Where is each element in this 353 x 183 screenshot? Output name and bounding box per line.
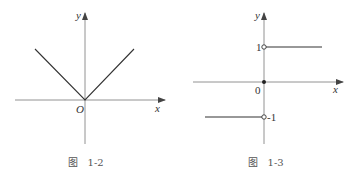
abs-curve <box>35 49 134 100</box>
y-axis-label: y <box>75 9 81 21</box>
figure-caption: 图 1-2 <box>68 157 104 168</box>
tick-label-1: 1 <box>256 41 262 53</box>
open-point-upper <box>262 45 266 49</box>
tick-label-minus-1: -1 <box>267 111 276 123</box>
figure-caption: 图 1-3 <box>248 157 284 168</box>
x-axis-label: x <box>154 102 160 114</box>
figures-canvas: y x O 图 1-2 y x 0 1 -1 图 1-3 <box>0 0 353 183</box>
origin-label: 0 <box>255 84 261 96</box>
figure-1-2: y x O 图 1-2 <box>15 9 165 168</box>
x-axis-label: x <box>332 83 338 95</box>
filled-point-origin <box>262 80 266 84</box>
origin-label: O <box>76 103 84 115</box>
y-axis-label: y <box>254 9 260 21</box>
figure-1-3: y x 0 1 -1 图 1-3 <box>193 9 343 168</box>
open-point-lower <box>262 115 266 119</box>
